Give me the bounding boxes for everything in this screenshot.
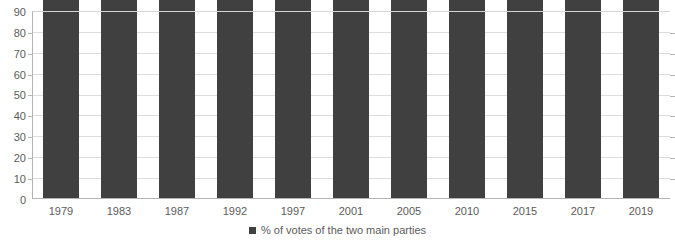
x-tick-label: 2019 xyxy=(612,201,670,221)
y-tick-label: 0 xyxy=(20,194,26,205)
x-tick-label: 2015 xyxy=(496,201,554,221)
bar-2005[interactable]: 67.5 xyxy=(391,0,427,199)
y-tick-label: 50 xyxy=(14,90,26,101)
y-tick-label: 40 xyxy=(14,111,26,122)
bar-slot: 65.1 xyxy=(438,11,496,199)
bar-1992[interactable]: 77.5 xyxy=(217,0,253,199)
x-tick-label: 1987 xyxy=(148,201,206,221)
x-tick-label: 2017 xyxy=(554,201,612,221)
y-tick-label: 20 xyxy=(14,153,26,164)
y-tick-label: 10 xyxy=(14,173,26,184)
y-tick-mark xyxy=(670,96,675,97)
y-tick-mark xyxy=(670,33,675,34)
y-tick-mark xyxy=(670,75,675,76)
y-axis-right-ticks xyxy=(670,11,675,200)
bar-2017[interactable]: 82.4 xyxy=(565,0,601,199)
bar-1983[interactable]: 70 xyxy=(101,0,137,199)
plot-area: 80.8 70 75.1 77.5 75.5 xyxy=(32,11,670,199)
chart-legend: % of votes of the two main parties xyxy=(0,224,675,237)
bar-1987[interactable]: 75.1 xyxy=(159,0,195,199)
y-tick-label: 90 xyxy=(14,7,26,18)
bar-slot: 75.1 xyxy=(148,11,206,199)
bar-2001[interactable]: 72.4 xyxy=(333,0,369,199)
x-tick-label: 1979 xyxy=(32,201,90,221)
x-tick-label: 1992 xyxy=(206,201,264,221)
y-tick-mark xyxy=(670,116,675,117)
bar-2015[interactable]: 67.3 xyxy=(507,0,543,199)
bars-layer: 80.8 70 75.1 77.5 75.5 xyxy=(32,11,670,199)
x-tick-label: 2005 xyxy=(380,201,438,221)
legend-item-votes[interactable]: % of votes of the two main parties xyxy=(249,224,426,237)
bar-slot: 77.6 xyxy=(612,11,670,199)
bar-chart: 90 80 70 60 50 40 30 20 10 0 80.8 xyxy=(0,0,675,242)
y-tick-mark xyxy=(670,137,675,138)
x-tick-label: 1983 xyxy=(90,201,148,221)
y-tick-label: 70 xyxy=(14,48,26,59)
bar-slot: 72.4 xyxy=(322,11,380,199)
bar-2019[interactable]: 77.6 xyxy=(623,0,659,199)
y-tick-label: 30 xyxy=(14,132,26,143)
y-tick-mark xyxy=(670,54,675,55)
bar-slot: 80.8 xyxy=(32,11,90,199)
y-axis: 90 80 70 60 50 40 30 20 10 0 xyxy=(0,0,32,210)
bar-slot: 75.5 xyxy=(264,11,322,199)
bar-2010[interactable]: 65.1 xyxy=(449,0,485,199)
bar-1997[interactable]: 75.5 xyxy=(275,0,311,199)
bar-1979[interactable]: 80.8 xyxy=(43,0,79,199)
bar-slot: 67.5 xyxy=(380,11,438,199)
bar-slot: 82.4 xyxy=(554,11,612,199)
y-tick-mark xyxy=(670,158,675,159)
y-tick-label: 60 xyxy=(14,69,26,80)
x-tick-label: 2001 xyxy=(322,201,380,221)
y-tick-mark xyxy=(670,179,675,180)
bar-slot: 67.3 xyxy=(496,11,554,199)
bar-slot: 70 xyxy=(90,11,148,199)
x-axis: 1979 1983 1987 1992 1997 2001 2005 2010 … xyxy=(32,201,670,221)
x-tick-label: 2010 xyxy=(438,201,496,221)
y-tick-label: 80 xyxy=(14,27,26,38)
legend-label: % of votes of the two main parties xyxy=(261,224,426,237)
legend-swatch-icon xyxy=(249,227,256,234)
x-tick-label: 1997 xyxy=(264,201,322,221)
bar-slot: 77.5 xyxy=(206,11,264,199)
